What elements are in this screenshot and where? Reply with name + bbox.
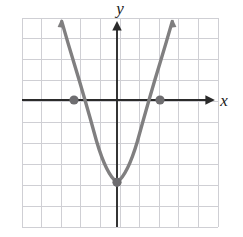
grid-lines <box>22 18 218 227</box>
y-axis-label: y <box>114 0 124 18</box>
x-axis-label: x <box>219 91 228 110</box>
parabola-figure: x y <box>0 0 243 237</box>
vertex-point <box>112 178 121 187</box>
coordinate-plane-svg: x y <box>0 0 243 237</box>
left-x-intercept-point <box>69 95 78 104</box>
right-x-intercept-point <box>155 95 164 104</box>
